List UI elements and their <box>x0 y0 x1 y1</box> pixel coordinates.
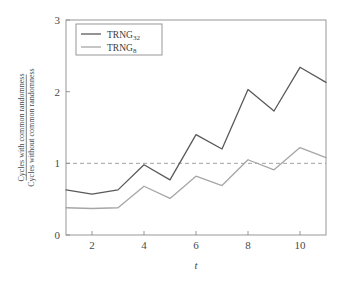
y-tick-label-2: 2 <box>55 86 61 98</box>
x-tick-label-2: 2 <box>89 239 95 251</box>
x-tick-label-10: 10 <box>295 239 307 251</box>
y-tick-label-1: 1 <box>55 157 61 169</box>
chart-figure: 2468100123tCycles with common randomness… <box>0 0 342 281</box>
y-axis-title-numerator: Cycles with common randomness <box>17 73 26 181</box>
y-tick-label-3: 3 <box>55 14 61 26</box>
x-tick-label-4: 4 <box>141 239 147 251</box>
x-tick-label-6: 6 <box>193 239 199 251</box>
y-tick-label-0: 0 <box>55 229 61 241</box>
y-axis-title-denominator: Cycles without common randomness <box>27 68 36 186</box>
chart-svg: 2468100123tCycles with common randomness… <box>0 0 342 281</box>
chart-background <box>0 0 342 281</box>
y-axis-title: Cycles with common randomnessCycles with… <box>17 68 37 186</box>
x-tick-label-8: 8 <box>245 239 251 251</box>
